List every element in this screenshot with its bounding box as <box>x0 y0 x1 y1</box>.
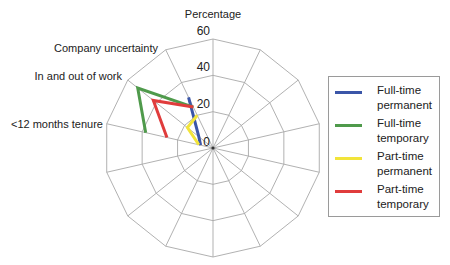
legend-label: permanent <box>377 98 432 113</box>
legend-label: Part-time <box>377 182 429 197</box>
legend-label: permanent <box>377 164 432 179</box>
legend-swatch-blue <box>335 91 362 94</box>
legend-label: Part-time <box>377 149 432 164</box>
legend-label: Full-time <box>377 83 432 98</box>
grid-spoke <box>213 80 298 148</box>
r-tick-label: 0 <box>203 135 210 149</box>
grid-spoke <box>213 148 260 246</box>
r-tick-label: 20 <box>197 97 211 111</box>
grid-spoke <box>107 148 213 172</box>
legend-label: temporary <box>377 197 429 212</box>
r-tick-label: 40 <box>197 60 211 74</box>
chart-legend: Full-time permanent Full-time temporary … <box>328 76 440 217</box>
legend-item-full-time-permanent: Full-time permanent <box>329 83 439 117</box>
grid-spoke <box>213 50 260 148</box>
category-label: Company uncertainty <box>54 42 158 54</box>
center-dot <box>211 146 214 149</box>
axis-title: Percentage <box>185 8 241 20</box>
legend-swatch-red <box>335 190 362 193</box>
category-label: <12 months tenure <box>11 118 103 130</box>
legend-swatch-yellow <box>335 157 362 160</box>
grid-spoke <box>166 148 213 246</box>
r-tick-label: 60 <box>197 24 211 38</box>
legend-item-full-time-temporary: Full-time temporary <box>329 116 439 150</box>
legend-item-part-time-permanent: Part-time permanent <box>329 149 439 183</box>
legend-item-part-time-temporary: Part-time temporary <box>329 182 439 216</box>
grid-spoke <box>213 148 298 216</box>
category-label: In and out of work <box>35 70 123 82</box>
grid-spoke <box>128 148 213 216</box>
legend-label: Full-time <box>377 116 429 131</box>
radar-series <box>138 88 201 145</box>
legend-label: temporary <box>377 131 429 146</box>
grid-spoke <box>213 148 319 172</box>
legend-swatch-green <box>335 124 362 127</box>
radar-grid <box>107 39 320 257</box>
series-line <box>153 100 193 137</box>
grid-spoke <box>213 124 319 148</box>
